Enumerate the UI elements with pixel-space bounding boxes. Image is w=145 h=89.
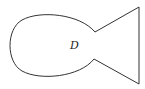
fish-region-diagram: D (0, 0, 145, 89)
region-label: D (69, 39, 79, 52)
